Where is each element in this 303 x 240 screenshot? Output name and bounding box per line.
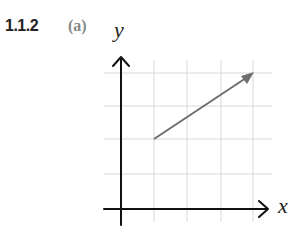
vector-plot [0, 0, 303, 240]
arrowhead-icon [241, 72, 254, 84]
x-axis [104, 201, 268, 217]
y-axis [113, 57, 129, 225]
grid [104, 60, 272, 222]
